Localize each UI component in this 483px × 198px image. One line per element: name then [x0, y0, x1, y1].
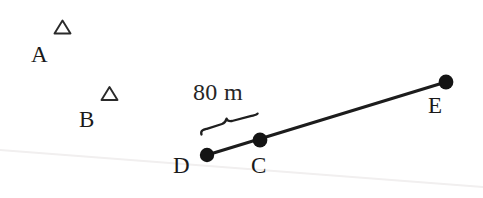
- curly-brace-icon: [201, 114, 257, 135]
- station-label-a: A: [31, 43, 48, 66]
- point-label-e: E: [428, 94, 442, 117]
- diagram-canvas: 80 m A B D C E: [0, 0, 483, 198]
- point-marker-d: [200, 148, 214, 162]
- point-label-c: C: [251, 154, 266, 177]
- ground-horizon-line: [0, 150, 483, 187]
- point-marker-c: [253, 133, 268, 148]
- triangle-outline-icon-a: [55, 21, 71, 34]
- station-label-b: B: [79, 108, 94, 131]
- triangle-outline-icon-b: [102, 87, 118, 100]
- dimension-label-80m: 80 m: [193, 80, 243, 104]
- point-label-d: D: [173, 154, 190, 177]
- point-marker-e: [439, 75, 454, 90]
